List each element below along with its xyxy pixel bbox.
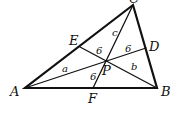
label-a-vertex: A [9, 84, 19, 99]
region-label-a: a [62, 63, 68, 74]
region-area-ep: 6 [96, 45, 103, 56]
label-f-point: F [87, 91, 98, 106]
cevian-ad [25, 48, 146, 88]
region-area-pf: 6 [90, 71, 97, 82]
triangle-diagram: A B C D E F P a b c 6 6 6 [0, 0, 184, 139]
label-p-point: P [101, 63, 111, 78]
label-e-point: E [68, 33, 79, 48]
label-d-point: D [148, 39, 160, 54]
label-b-vertex: B [160, 84, 171, 99]
region-area-pd: 6 [125, 43, 132, 54]
label-c-vertex: C [129, 0, 139, 6]
region-label-b: b [131, 61, 137, 72]
region-label-c: c [112, 27, 118, 38]
